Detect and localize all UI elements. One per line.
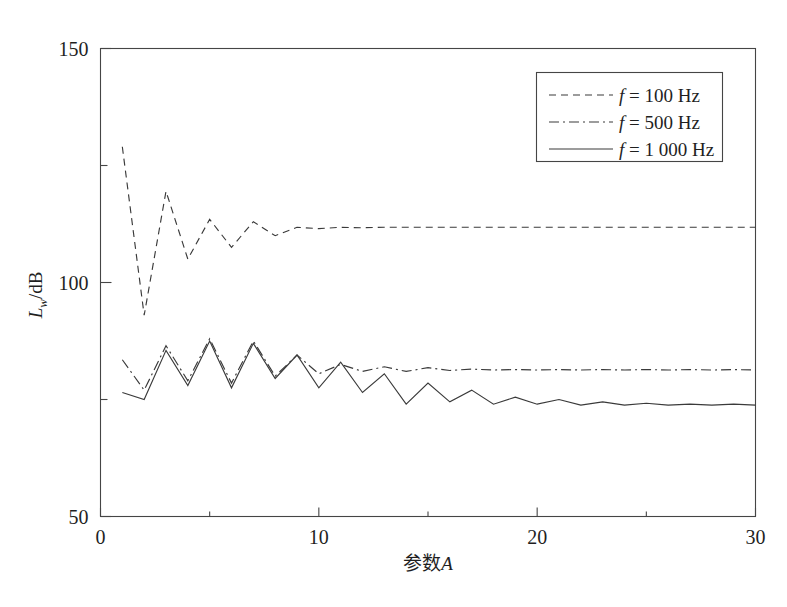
- chart-figure: 0102030 50100150 Lw/dB 参数A f = 100 Hzf =…: [0, 0, 787, 607]
- series-line-0: [122, 147, 755, 315]
- legend-label-rest: = 1 000 Hz: [624, 139, 714, 160]
- y-axis-title-main: L: [25, 308, 46, 320]
- y-tick-label: 50: [69, 506, 89, 528]
- x-tick-label: 20: [527, 526, 547, 548]
- legend-label-2: f = 1 000 Hz: [619, 139, 714, 160]
- data-series-group: [122, 147, 755, 405]
- x-tick-label: 10: [309, 526, 329, 548]
- legend: f = 100 Hzf = 500 Hzf = 1 000 Hz: [537, 73, 723, 162]
- y-axis-title-tail: /dB: [25, 272, 46, 299]
- y-axis-ticks: [101, 49, 112, 517]
- y-axis-tick-labels: 50100150: [59, 38, 89, 528]
- x-axis-title-var: A: [439, 553, 453, 574]
- legend-label-0: f = 100 Hz: [619, 85, 700, 106]
- legend-label-rest: = 500 Hz: [624, 112, 700, 133]
- legend-label-rest: = 100 Hz: [624, 85, 700, 106]
- x-axis-title-cn: 参数: [403, 553, 441, 574]
- legend-label-1: f = 500 Hz: [619, 112, 700, 133]
- y-tick-label: 150: [59, 38, 89, 60]
- svg-text:Lw/dB: Lw/dB: [25, 272, 50, 320]
- svg-text:参数A: 参数A: [403, 553, 453, 574]
- series-line-1: [122, 339, 755, 390]
- chart-svg: 0102030 50100150 Lw/dB 参数A f = 100 Hzf =…: [0, 0, 787, 607]
- y-axis-title: Lw/dB: [25, 272, 50, 320]
- x-tick-label: 0: [96, 526, 106, 548]
- y-axis-title-sub: w: [35, 299, 50, 308]
- x-axis-ticks: [101, 508, 756, 517]
- x-tick-label: 30: [746, 526, 766, 548]
- series-line-2: [122, 341, 755, 405]
- y-tick-label: 100: [59, 272, 89, 294]
- x-axis-tick-labels: 0102030: [96, 526, 766, 548]
- x-axis-title: 参数A: [403, 553, 453, 574]
